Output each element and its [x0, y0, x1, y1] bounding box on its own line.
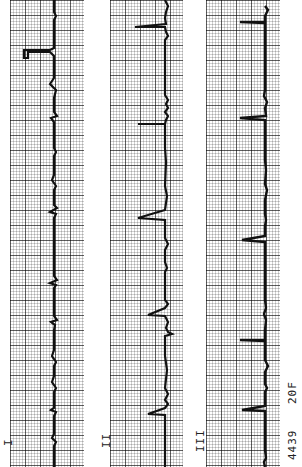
- lead-label-iii: III: [194, 429, 207, 452]
- ecg-strip-lead-iii: [206, 0, 280, 467]
- lead-label-i: I: [2, 438, 15, 446]
- ecg-trace-lead-ii: [110, 0, 183, 467]
- ecg-strip-lead-i: [10, 0, 84, 467]
- ecg-trace-lead-iii: [206, 0, 280, 467]
- patient-label: 20F: [286, 381, 299, 404]
- record-id-label: 4439: [286, 430, 299, 461]
- ecg-strip-lead-ii: [110, 0, 183, 467]
- lead-label-ii: II: [100, 433, 113, 448]
- ecg-trace-lead-i: [10, 0, 84, 467]
